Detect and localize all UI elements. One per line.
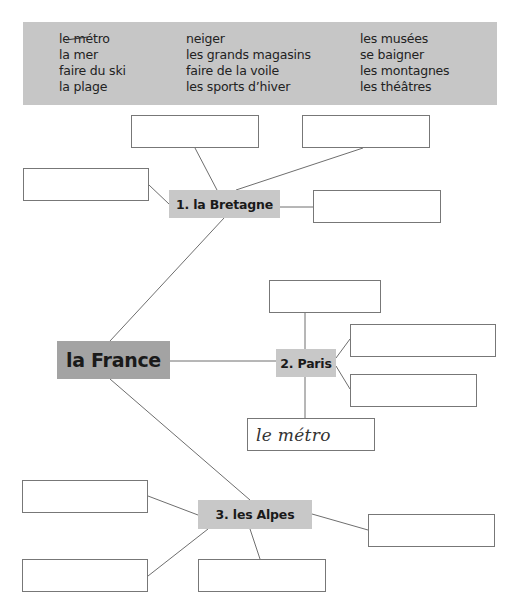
answer-box-bretagne-4[interactable] [313, 190, 441, 223]
answer-box-paris-1[interactable] [269, 280, 381, 313]
answer-box-alpes-3[interactable] [22, 559, 148, 592]
branch-node-alpes: 3. les Alpes [198, 500, 312, 529]
root-node-la-france: la France [57, 341, 170, 379]
branch-node-paris: 2. Paris [276, 349, 336, 377]
worksheet-page: le métro la mer faire du ski la plage ne… [0, 0, 520, 611]
answer-box-alpes-2[interactable] [368, 514, 495, 547]
answer-box-alpes-4[interactable] [198, 559, 326, 592]
answer-box-paris-4[interactable]: le métro [247, 418, 375, 451]
branch-node-bretagne: 1. la Bretagne [169, 190, 280, 218]
answer-box-bretagne-3[interactable] [23, 168, 149, 201]
answer-box-bretagne-2[interactable] [302, 115, 430, 148]
example-answer-text: le métro [256, 425, 331, 445]
answer-box-paris-3[interactable] [350, 374, 477, 407]
answer-box-bretagne-1[interactable] [131, 115, 259, 148]
answer-box-alpes-1[interactable] [22, 480, 148, 513]
answer-box-paris-2[interactable] [350, 324, 496, 357]
